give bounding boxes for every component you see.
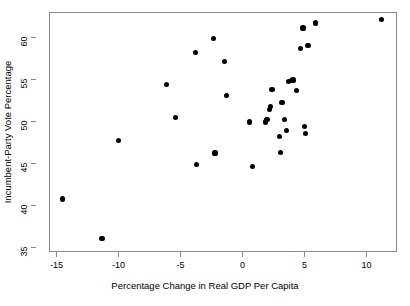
data-point [313, 20, 318, 25]
y-axis-title: Incumbent-Party Vote Percentage [2, 61, 13, 204]
data-point [277, 134, 282, 139]
data-point [282, 117, 287, 122]
data-point [284, 128, 289, 133]
x-axis-tick-label: 10 [361, 260, 371, 270]
y-axis-tick-mark [31, 79, 36, 80]
y-axis-tick-mark [31, 163, 36, 164]
data-point [279, 100, 284, 105]
data-point [193, 50, 198, 55]
data-point [211, 36, 216, 41]
data-point [294, 88, 299, 93]
data-point [290, 77, 295, 82]
data-point [194, 162, 199, 167]
data-point [164, 82, 169, 87]
x-axis-tick-mark [56, 252, 57, 257]
y-axis-tick-label: 40 [25, 209, 34, 219]
data-point [269, 87, 274, 92]
data-point [264, 117, 269, 122]
x-axis-tick-label: -5 [176, 260, 184, 270]
x-axis-tick-mark [366, 252, 367, 257]
data-point [305, 43, 310, 48]
plot-area [49, 12, 397, 252]
y-axis-tick-label: 50 [25, 125, 34, 135]
data-point [224, 93, 229, 98]
data-point [60, 196, 65, 201]
y-axis-tick-mark [31, 205, 36, 206]
y-axis-tick-label: 60 [25, 42, 34, 52]
data-point [247, 119, 252, 124]
x-axis: Percentage Change in Real GDP Per Capita… [0, 252, 410, 306]
y-axis-tick-mark [31, 37, 36, 38]
data-point [212, 150, 217, 155]
x-axis-tick-mark [118, 252, 119, 257]
data-point [302, 124, 307, 129]
y-axis-tick-label: 55 [25, 84, 34, 94]
y-axis-tick-mark [31, 121, 36, 122]
data-point [250, 164, 255, 169]
data-point [300, 25, 305, 30]
x-axis-tick-mark [180, 252, 181, 257]
data-point [278, 150, 283, 155]
x-axis-tick-label: -15 [50, 260, 63, 270]
data-point [222, 59, 227, 64]
data-point [173, 115, 178, 120]
x-axis-tick-label: 5 [302, 260, 307, 270]
data-point [303, 131, 308, 136]
data-point [116, 138, 121, 143]
scatter-plot-figure: 354045505560Incumbent-Party Vote Percent… [0, 0, 410, 306]
y-axis-tick-mark [31, 247, 36, 248]
data-point [298, 46, 303, 51]
x-axis-tick-mark [304, 252, 305, 257]
data-points-layer [50, 13, 396, 251]
data-point [99, 236, 104, 241]
y-axis-tick-label: 45 [25, 167, 34, 177]
x-axis-title: Percentage Change in Real GDP Per Capita [0, 280, 410, 291]
data-point [268, 104, 273, 109]
x-axis-tick-label: 0 [240, 260, 245, 270]
x-axis-tick-label: -10 [112, 260, 125, 270]
x-axis-tick-mark [242, 252, 243, 257]
data-point [379, 17, 384, 22]
